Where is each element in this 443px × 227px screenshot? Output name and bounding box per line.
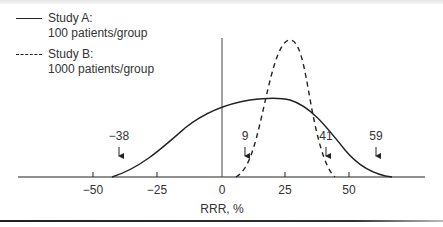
tick-label-neg50: −50 <box>83 183 104 197</box>
tick-label-neg25: −25 <box>147 183 168 197</box>
x-ticks <box>93 172 349 177</box>
annotation-41: 41 <box>319 129 333 143</box>
tick-label-50: 50 <box>342 183 356 197</box>
annotation-9: 9 <box>242 129 249 143</box>
x-axis-label: RRR, % <box>200 202 244 216</box>
chart-plot: −50 −25 0 25 50 RRR, % −38 9 41 59 <box>0 0 443 227</box>
study-b-curve <box>236 40 335 177</box>
tick-label-0: 0 <box>219 183 226 197</box>
annotation-neg38: −38 <box>109 129 130 143</box>
bottom-rule <box>0 220 443 222</box>
tick-label-25: 25 <box>278 183 292 197</box>
study-a-curve <box>112 98 392 177</box>
annotation-59: 59 <box>369 129 383 143</box>
